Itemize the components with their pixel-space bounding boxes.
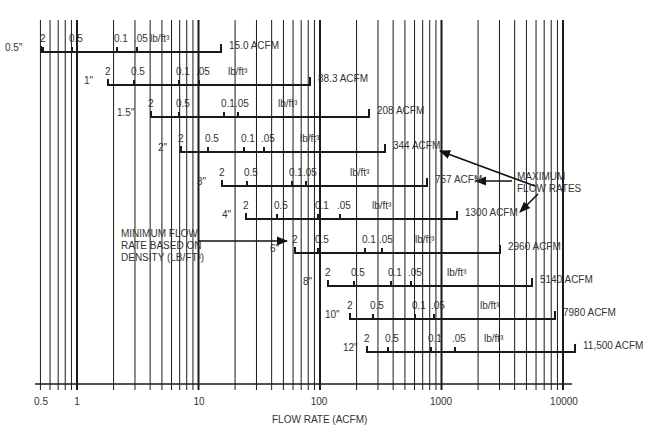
x-tick-label: 10000 xyxy=(550,396,578,407)
density-unit-label: lb/ft³ xyxy=(484,334,503,344)
pipe-size-label: 0.5" xyxy=(5,43,22,53)
x-tick-label: 0.5 xyxy=(34,396,48,407)
density-label: 0.5 xyxy=(205,134,219,144)
density-unit-label: lb/ft³ xyxy=(447,268,466,278)
flow-rate-chart xyxy=(0,0,646,434)
max-flow-label: 7980 ACFM xyxy=(563,308,616,318)
density-label: 0.1 xyxy=(221,99,235,109)
pipe-size-label: 6" xyxy=(270,244,279,254)
max-flow-label: 11,500 ACFM xyxy=(583,341,643,351)
max-flow-annotation-line1: MAXIMUM xyxy=(517,171,581,183)
density-label: 2 xyxy=(292,235,298,245)
density-unit-label: lb/ft³ xyxy=(228,67,247,77)
max-flow-annotation: MAXIMUM FLOW RATES xyxy=(517,171,581,195)
density-label: 2 xyxy=(178,134,184,144)
density-label: .05 xyxy=(303,168,317,178)
density-label: 0.1 xyxy=(114,34,128,44)
x-tick-label: 100 xyxy=(311,396,328,407)
x-axis-label: FLOW RATE (ACFM) xyxy=(272,414,367,425)
max-flow-label: 1300 ACFM xyxy=(465,208,518,218)
density-label: .05 xyxy=(196,67,210,77)
density-label: 0.5 xyxy=(274,201,288,211)
density-label: 0.5 xyxy=(69,34,83,44)
pipe-size-label: 1.5" xyxy=(117,108,134,118)
max-flow-annotation-line2: FLOW RATES xyxy=(517,183,581,195)
min-flow-annotation: MINIMUM FLOW RATE BASED ON DENSITY (LB/F… xyxy=(121,228,204,264)
density-label: 0.1 xyxy=(362,235,376,245)
density-label: .05 xyxy=(337,201,351,211)
density-label: 0.1 xyxy=(241,134,255,144)
density-label: 2 xyxy=(148,99,154,109)
max-flow-label: 757 ACFM xyxy=(435,175,482,185)
density-label: 2 xyxy=(243,201,249,211)
density-label: 0.1 xyxy=(176,67,190,77)
density-label: .05 xyxy=(134,34,148,44)
density-label: .05 xyxy=(235,99,249,109)
density-label: 0.1 xyxy=(428,334,442,344)
max-flow-label: 208 ACFM xyxy=(377,106,424,116)
min-flow-annotation-line1: MINIMUM FLOW xyxy=(121,228,204,240)
max-flow-label: 344 ACFM xyxy=(393,141,440,151)
density-label: 2 xyxy=(325,268,331,278)
density-label: 2 xyxy=(347,301,353,311)
density-label: 0.1 xyxy=(315,201,329,211)
max-flow-label: 88.3 ACFM xyxy=(318,74,368,84)
pipe-size-label: 8" xyxy=(303,277,312,287)
density-label: .05 xyxy=(452,334,466,344)
min-flow-annotation-line3: DENSITY (LB/FT³) xyxy=(121,252,204,264)
density-unit-label: lb/ft³ xyxy=(372,201,391,211)
pipe-size-label: 10" xyxy=(325,310,340,320)
x-tick-label: 10 xyxy=(193,396,204,407)
pipe-size-label: 12" xyxy=(343,343,358,353)
density-label: 0.1 xyxy=(412,301,426,311)
density-label: 0.5 xyxy=(244,168,258,178)
min-flow-annotation-line2: RATE BASED ON xyxy=(121,240,204,252)
density-label: 0.1 xyxy=(289,168,303,178)
density-unit-label: lb/ft³ xyxy=(300,134,319,144)
density-label: 0.1 xyxy=(388,268,402,278)
density-label: 0.5 xyxy=(176,99,190,109)
density-unit-label: lb/ft³ xyxy=(278,99,297,109)
density-label: 2 xyxy=(219,168,225,178)
density-unit-label: lb/ft³ xyxy=(415,235,434,245)
density-label: 2 xyxy=(364,334,370,344)
arrow-to-1300 xyxy=(520,194,538,212)
pipe-size-label: 3" xyxy=(197,177,206,187)
pipe-size-label: 2" xyxy=(158,143,167,153)
annotation-arrows xyxy=(198,151,538,241)
max-flow-label: 5140 ACFM xyxy=(540,275,593,285)
density-unit-label: lb/ft³ xyxy=(150,34,169,44)
density-label: 0.5 xyxy=(370,301,384,311)
pipe-size-label: 4" xyxy=(222,210,231,220)
density-label: 2 xyxy=(105,67,111,77)
density-label: 0.5 xyxy=(351,268,365,278)
max-flow-label: 2960 ACFM xyxy=(508,242,561,252)
density-label: 2 xyxy=(40,34,46,44)
max-flow-label: 15.0 ACFM xyxy=(229,41,279,51)
x-tick-label: 1 xyxy=(74,396,80,407)
density-label: .05 xyxy=(261,134,275,144)
density-label: 0.5 xyxy=(315,235,329,245)
density-label: .05 xyxy=(408,268,422,278)
density-unit-label: lb/ft³ xyxy=(350,168,369,178)
density-label: .05 xyxy=(379,235,393,245)
density-label: 0.5 xyxy=(131,67,145,77)
density-label: .05 xyxy=(431,301,445,311)
pipe-size-label: 1" xyxy=(84,76,93,86)
x-tick-label: 1000 xyxy=(430,396,452,407)
density-unit-label: lb/ft³ xyxy=(480,301,499,311)
density-label: 0.5 xyxy=(385,334,399,344)
